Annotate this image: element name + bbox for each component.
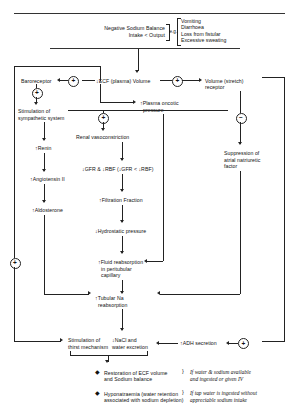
gfr-arrow xyxy=(120,158,124,161)
suppression-to-tubular-arrow xyxy=(157,291,160,295)
sign-baroreceptor-plus[interactable]: + xyxy=(68,76,79,87)
node-renal-vasoconstriction: Renal vasoconstriction xyxy=(76,134,129,140)
node-adh-secretion: ↑ADH secretion xyxy=(180,340,217,346)
top-left-rail-v-left xyxy=(14,66,15,81)
node-thirst-line2: thirst mechanism xyxy=(68,344,108,350)
title-to-ecf-arrow xyxy=(135,70,139,73)
left-feedback-rail-top xyxy=(14,80,15,258)
nacl-arrow xyxy=(120,328,124,331)
node-nacl-line1: ↓NaCl and xyxy=(112,337,137,343)
sign-stretch-minus[interactable]: − xyxy=(236,113,247,124)
node-baroreceptor: Baroreceptor xyxy=(21,78,52,84)
outcome-0-condition-line2: and ingested or given IV xyxy=(190,376,243,383)
far-right-to-adh-line xyxy=(262,341,285,342)
sign-stretch-plus[interactable]: + xyxy=(172,76,183,87)
node-ecf-volume: ↓ECF (plasma) Volume xyxy=(96,78,150,84)
outcome-1-bullet: ◆ xyxy=(95,391,100,397)
ecf-to-oncotic-line xyxy=(100,102,133,103)
node-tubular-na-line2: reabsorption xyxy=(98,302,127,308)
stretch-far-right-rail-h xyxy=(262,77,285,78)
ff-arrow xyxy=(120,189,124,192)
node-suppression-line2: atrial natriuretic xyxy=(224,157,260,163)
aldosterone-down-line xyxy=(44,215,45,294)
outcome-1-condition-line2: appreciable sodium intake xyxy=(190,397,247,404)
top-left-rail-v-right xyxy=(100,66,101,81)
outcome-0-line1: Restoration of ECF volume xyxy=(104,370,168,376)
outcomes-brace xyxy=(70,351,148,356)
oncotic-arrow xyxy=(133,100,136,104)
suppression-down-line xyxy=(240,171,241,294)
sympathetic-to-renalvaso-rail xyxy=(68,110,228,111)
node-stretch-receptor-line2: receptor xyxy=(205,84,224,90)
renal-vaso-arrow xyxy=(101,128,105,131)
node-sympathetic-line2: sympathetic system xyxy=(18,115,64,121)
sign-to-adh-arrow xyxy=(226,341,229,345)
adh-to-nacl-arrow xyxy=(156,341,159,345)
title-line-2: Intake < Output xyxy=(62,32,165,38)
ecf-to-stretch-line-a xyxy=(160,80,172,81)
stretch-far-right-rail-v xyxy=(284,77,285,341)
title-to-ecf-line xyxy=(138,49,139,71)
oncotic-down-rail xyxy=(163,114,164,261)
adh-to-nacl-line xyxy=(159,343,178,344)
outcome-1-cond-bracket: } xyxy=(182,389,184,395)
top-divider xyxy=(14,13,285,14)
sign-to-suppression-line xyxy=(240,122,241,144)
node-angiotensin: ↑Angiotensin II xyxy=(30,176,65,182)
ecf-down-line xyxy=(100,84,101,103)
ecf-to-baroreceptor-arrow xyxy=(57,78,60,82)
sign-adh-plus[interactable]: + xyxy=(238,338,249,349)
outcome-1-line1: Hyponatraemia (water retention xyxy=(104,391,178,397)
ecf-to-baroreceptor-line-a xyxy=(82,80,95,81)
outcome-1-line2: associated with sodium depletion) xyxy=(104,397,184,403)
node-sympathetic-line1: Stimulation of xyxy=(18,108,50,114)
sign-to-adh-line xyxy=(229,343,238,344)
node-filtration-fraction: ↑Filtration Fraction xyxy=(99,197,143,203)
left-feedback-to-thirst-arrow xyxy=(60,338,63,342)
top-left-rail-h xyxy=(14,66,100,67)
sympathetic-arrow xyxy=(34,102,38,105)
causes-bracket xyxy=(177,18,181,46)
aldosterone-arrow xyxy=(42,200,46,203)
angiotensin-arrow xyxy=(42,169,46,172)
renin-arrow xyxy=(42,138,46,141)
title-underline xyxy=(50,48,240,49)
node-aldosterone: ↑Aldosterone xyxy=(32,207,63,213)
sympathetic-rail-drop xyxy=(103,110,104,114)
tubular-to-nacl-line xyxy=(122,309,123,330)
node-fluid-reabs-line1: ↑Fluid reabsorption xyxy=(98,259,143,265)
node-fluid-reabs-line3: capillary xyxy=(101,272,120,278)
node-renin: ↑Renin xyxy=(35,145,51,151)
cause-item-3: Excessive sweating xyxy=(181,37,226,44)
node-stretch-receptor-line1: Volume (stretch) xyxy=(205,78,244,84)
outcome-0-cond-bracket: } xyxy=(182,368,184,374)
ecf-to-baroreceptor-line-b xyxy=(60,80,68,81)
node-thirst-line1: Stimulation of xyxy=(68,337,100,343)
node-suppression-line1: Suppression of xyxy=(224,150,259,156)
oncotic-to-fluid-line xyxy=(147,261,163,262)
fluid-reabs-arrow xyxy=(120,251,124,254)
node-hydrostatic-pressure: ↓Hydrostatic pressure xyxy=(95,228,146,234)
node-tubular-na-line1: ↑Tubular Na xyxy=(95,295,124,301)
title-line-1: Negative Sodium Balance xyxy=(62,25,165,31)
stretch-to-sign-line xyxy=(240,91,241,113)
suppression-to-tubular-line xyxy=(160,294,240,295)
outcome-0-line2: and Sodium balance xyxy=(104,376,152,382)
outcome-1-condition-line1: If tap water is ingested without xyxy=(190,390,257,397)
oncotic-to-fluid-arrow xyxy=(144,259,147,263)
hydrostatic-arrow xyxy=(120,220,124,223)
left-feedback-to-thirst-line xyxy=(14,341,61,342)
node-gfr-rbf: ↓GFR & ↓RBF (↓GFR < ↓RBF) xyxy=(82,166,153,172)
node-plasma-oncotic-line1: ↑Plasma oncotic xyxy=(140,100,179,106)
tubular-na-arrow xyxy=(120,291,124,294)
suppression-arrow xyxy=(238,142,242,145)
sign-left-feedback-plus[interactable]: + xyxy=(10,258,21,269)
flowchart-canvas: Negative Sodium Balance Intake < Output … xyxy=(0,0,299,416)
aldosterone-to-tubular-line xyxy=(44,294,89,295)
node-suppression-line3: factor xyxy=(224,163,237,169)
outcome-0-condition-line1: If water & sodium available xyxy=(190,369,251,376)
node-fluid-reabs-line2: in peritubular xyxy=(101,266,132,272)
node-nacl-line2: water excretion xyxy=(112,344,148,350)
outcome-0-bullet: ◆ xyxy=(95,370,100,376)
outcomes-arrow xyxy=(105,360,109,363)
